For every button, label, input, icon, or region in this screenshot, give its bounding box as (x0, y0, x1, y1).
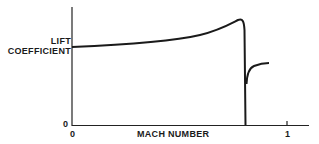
y-tick-zero: 0 (63, 119, 68, 129)
lift-vs-mach-chart (0, 0, 319, 144)
x-axis-title: MACH NUMBER (137, 129, 209, 139)
y-axis-label-line2: COEFFICIENT (8, 46, 71, 56)
lift-curve-main (72, 19, 246, 125)
x-tick-one-label: 1 (285, 129, 290, 139)
y-axis-label-line1: LIFT (51, 36, 71, 46)
lift-curve-recovery (247, 63, 270, 84)
x-tick-zero: 0 (70, 129, 75, 139)
